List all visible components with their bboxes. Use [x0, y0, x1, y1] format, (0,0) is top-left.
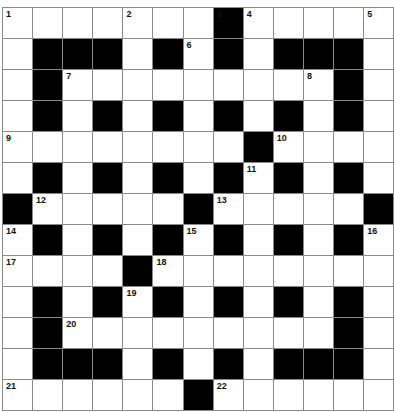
answer-cell[interactable]: 13	[214, 194, 244, 225]
answer-cell[interactable]	[123, 70, 153, 101]
answer-cell[interactable]	[304, 132, 334, 163]
answer-cell[interactable]	[63, 8, 93, 39]
answer-cell[interactable]	[364, 70, 394, 101]
answer-cell[interactable]	[123, 225, 153, 256]
answer-cell[interactable]	[334, 256, 364, 287]
answer-cell[interactable]	[214, 70, 244, 101]
answer-cell[interactable]	[304, 101, 334, 132]
answer-cell[interactable]	[364, 380, 394, 411]
answer-cell[interactable]	[184, 132, 214, 163]
answer-cell[interactable]	[304, 8, 334, 39]
answer-cell[interactable]	[274, 318, 304, 349]
answer-cell[interactable]: 2	[123, 8, 153, 39]
answer-cell[interactable]	[63, 132, 93, 163]
answer-cell[interactable]: 19	[123, 287, 153, 318]
answer-cell[interactable]	[153, 132, 183, 163]
answer-cell[interactable]	[153, 8, 183, 39]
answer-cell[interactable]	[244, 256, 274, 287]
answer-cell[interactable]	[93, 132, 123, 163]
answer-cell[interactable]	[334, 8, 364, 39]
answer-cell[interactable]	[304, 194, 334, 225]
answer-cell[interactable]	[184, 70, 214, 101]
answer-cell[interactable]	[93, 256, 123, 287]
answer-cell[interactable]	[244, 70, 274, 101]
answer-cell[interactable]	[123, 101, 153, 132]
answer-cell[interactable]: 14	[3, 225, 33, 256]
answer-cell[interactable]	[123, 349, 153, 380]
answer-cell[interactable]	[63, 287, 93, 318]
answer-cell[interactable]: 4	[244, 8, 274, 39]
answer-cell[interactable]	[184, 256, 214, 287]
answer-cell[interactable]	[33, 132, 63, 163]
answer-cell[interactable]	[244, 101, 274, 132]
answer-cell[interactable]	[364, 318, 394, 349]
answer-cell[interactable]	[153, 380, 183, 411]
answer-cell[interactable]	[244, 287, 274, 318]
answer-cell[interactable]	[304, 287, 334, 318]
answer-cell[interactable]	[123, 132, 153, 163]
answer-cell[interactable]	[3, 318, 33, 349]
answer-cell[interactable]: 17	[3, 256, 33, 287]
answer-cell[interactable]: 22	[214, 380, 244, 411]
answer-cell[interactable]	[123, 39, 153, 70]
answer-cell[interactable]	[123, 194, 153, 225]
answer-cell[interactable]	[304, 318, 334, 349]
answer-cell[interactable]: 15	[184, 225, 214, 256]
answer-cell[interactable]	[3, 287, 33, 318]
answer-cell[interactable]	[184, 101, 214, 132]
answer-cell[interactable]	[364, 256, 394, 287]
answer-cell[interactable]	[244, 380, 274, 411]
answer-cell[interactable]: 21	[3, 380, 33, 411]
answer-cell[interactable]	[244, 318, 274, 349]
answer-cell[interactable]	[334, 194, 364, 225]
answer-cell[interactable]	[364, 101, 394, 132]
answer-cell[interactable]	[63, 194, 93, 225]
answer-cell[interactable]	[123, 380, 153, 411]
answer-cell[interactable]	[123, 318, 153, 349]
answer-cell[interactable]	[244, 225, 274, 256]
answer-cell[interactable]	[334, 132, 364, 163]
answer-cell[interactable]: 20	[63, 318, 93, 349]
answer-cell[interactable]: 10	[274, 132, 304, 163]
answer-cell[interactable]	[63, 225, 93, 256]
answer-cell[interactable]: 5	[364, 8, 394, 39]
answer-cell[interactable]	[184, 349, 214, 380]
answer-cell[interactable]	[304, 256, 334, 287]
answer-cell[interactable]	[184, 287, 214, 318]
answer-cell[interactable]	[364, 39, 394, 70]
answer-cell[interactable]: 1	[3, 8, 33, 39]
answer-cell[interactable]	[214, 256, 244, 287]
answer-cell[interactable]	[274, 70, 304, 101]
answer-cell[interactable]	[304, 225, 334, 256]
answer-cell[interactable]	[184, 8, 214, 39]
answer-cell[interactable]	[3, 163, 33, 194]
answer-cell[interactable]	[93, 70, 123, 101]
answer-cell[interactable]	[3, 101, 33, 132]
answer-cell[interactable]	[364, 349, 394, 380]
answer-cell[interactable]: 18	[153, 256, 183, 287]
answer-cell[interactable]	[153, 70, 183, 101]
answer-cell[interactable]	[93, 8, 123, 39]
answer-cell[interactable]	[274, 194, 304, 225]
answer-cell[interactable]	[3, 349, 33, 380]
answer-cell[interactable]	[63, 380, 93, 411]
answer-cell[interactable]	[304, 163, 334, 194]
answer-cell[interactable]	[184, 318, 214, 349]
answer-cell[interactable]	[93, 194, 123, 225]
answer-cell[interactable]	[244, 349, 274, 380]
answer-cell[interactable]: 16	[364, 225, 394, 256]
answer-cell[interactable]	[93, 318, 123, 349]
answer-cell[interactable]	[244, 39, 274, 70]
answer-cell[interactable]	[63, 163, 93, 194]
answer-cell[interactable]: 12	[33, 194, 63, 225]
answer-cell[interactable]	[33, 380, 63, 411]
answer-cell[interactable]: 6	[184, 39, 214, 70]
answer-cell[interactable]	[274, 8, 304, 39]
answer-cell[interactable]	[214, 318, 244, 349]
answer-cell[interactable]	[214, 132, 244, 163]
answer-cell[interactable]	[274, 256, 304, 287]
answer-cell[interactable]	[364, 132, 394, 163]
answer-cell[interactable]	[364, 287, 394, 318]
answer-cell[interactable]: 8	[304, 70, 334, 101]
answer-cell[interactable]	[364, 163, 394, 194]
